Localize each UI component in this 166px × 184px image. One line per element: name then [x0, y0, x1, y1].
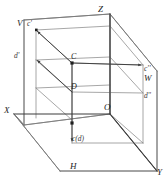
point-marker-C — [70, 61, 73, 64]
point-marker-cd — [70, 121, 73, 124]
projector-c-to-cdoubleprime — [72, 63, 141, 65]
point-label-c-double-prime: c'' — [144, 65, 151, 73]
axis-label-Z: Z — [98, 5, 103, 14]
axis-label-origin-O: O — [104, 103, 111, 112]
plane-label-V: V — [17, 19, 23, 28]
point-label-D: D — [71, 83, 77, 91]
point-label-d-prime: d' — [14, 52, 19, 60]
plane-label-H: H — [70, 162, 77, 171]
axis-label-Y: Y — [157, 168, 162, 177]
construction-box-edges — [36, 26, 143, 143]
projector-c-to-cprime — [38, 32, 73, 64]
point-label-C: C — [71, 53, 76, 61]
plane-label-W: W — [144, 74, 152, 83]
point-label-c-paren-d: c(d) — [72, 135, 84, 143]
projection-diagram-canvas — [0, 0, 166, 184]
projector-rays — [38, 32, 142, 142]
point-marker-cprime — [35, 29, 38, 32]
axis-y-line — [110, 114, 157, 171]
point-label-c-prime: c' — [27, 20, 32, 28]
horizontal-plane-H — [14, 114, 157, 171]
axis-label-X: X — [4, 106, 10, 115]
projection-diagram-figure: V H W X Y Z O C D c' d' c'' d'' c(d) — [0, 0, 166, 184]
point-label-d-double-prime: d'' — [144, 92, 151, 100]
